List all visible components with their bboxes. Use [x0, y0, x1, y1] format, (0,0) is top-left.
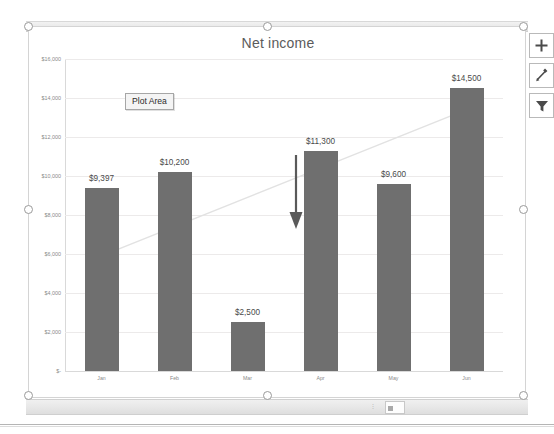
bar-feb[interactable]: [158, 172, 192, 371]
plus-icon: [535, 39, 548, 52]
data-label-mar: $2,500: [213, 308, 283, 317]
bar-may[interactable]: [377, 184, 411, 371]
chart-tools-panel[interactable]: [529, 33, 554, 123]
data-label-jan: $9,397: [67, 174, 137, 183]
page-divider-line-secondary: [0, 426, 554, 427]
plot-area-tooltip: Plot Area: [125, 93, 174, 110]
x-axis-tick-label: Feb: [140, 375, 210, 381]
resize-handle-bottom-middle[interactable]: [263, 391, 272, 400]
paintbrush-icon: [534, 68, 549, 83]
chart-object[interactable]: Net income $-$2,000$4,000$6,000$8,000$10…: [28, 26, 526, 398]
down-arrow-annotation[interactable]: [281, 153, 311, 231]
bar-mar[interactable]: [231, 322, 265, 371]
scrollbar-ellipsis: ⋮: [370, 402, 377, 409]
gridline: [65, 254, 503, 255]
resize-handle-top-right[interactable]: [519, 22, 528, 31]
resize-handle-top-left[interactable]: [24, 22, 33, 31]
scrollbar-marker-dot: [388, 406, 393, 411]
chart-elements-button[interactable]: [529, 33, 554, 58]
y-axis-tick-label: $2,000: [9, 329, 61, 335]
data-label-may: $9,600: [359, 170, 429, 179]
scrollbar-marker[interactable]: [385, 401, 405, 414]
y-axis-tick-label: $4,000: [9, 290, 61, 296]
chart-filters-button[interactable]: [529, 93, 554, 118]
y-axis-tick-label: $-: [9, 368, 61, 374]
bar-jan[interactable]: [85, 188, 119, 371]
x-axis-tick-label: Jun: [432, 375, 502, 381]
resize-handle-middle-right[interactable]: [519, 205, 528, 214]
resize-handle-top-middle[interactable]: [263, 22, 272, 31]
gridline: [65, 59, 503, 60]
x-axis-tick-label: Mar: [213, 375, 283, 381]
y-axis-tick-label: $12,000: [9, 134, 61, 140]
y-axis-tick-label: $14,000: [9, 95, 61, 101]
worksheet-bottom-scrollbar[interactable]: [26, 399, 528, 415]
gridline: [65, 332, 503, 333]
chart-styles-button[interactable]: [529, 63, 554, 88]
x-axis-tick-label: Jan: [67, 375, 137, 381]
data-label-feb: $10,200: [140, 158, 210, 167]
y-axis-tick-label: $10,000: [9, 173, 61, 179]
resize-handle-bottom-left[interactable]: [24, 391, 33, 400]
x-axis-line: [65, 371, 503, 372]
data-label-apr: $11,300: [286, 137, 356, 146]
x-axis-tick-label: May: [359, 375, 429, 381]
funnel-icon: [535, 99, 549, 113]
gridline: [65, 293, 503, 294]
data-label-jun: $14,500: [432, 74, 502, 83]
y-axis-tick-label: $8,000: [9, 212, 61, 218]
page-divider-line: [0, 424, 554, 425]
y-axis-tick-label: $16,000: [9, 56, 61, 62]
resize-handle-bottom-right[interactable]: [519, 391, 528, 400]
chart-title[interactable]: Net income: [29, 35, 527, 51]
resize-handle-middle-left[interactable]: [24, 205, 33, 214]
gridline: [65, 137, 503, 138]
x-axis-tick-label: Apr: [286, 375, 356, 381]
bar-jun[interactable]: [450, 88, 484, 371]
y-axis-tick-label: $6,000: [9, 251, 61, 257]
